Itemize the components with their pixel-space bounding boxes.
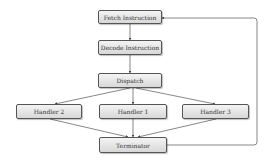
node-handler-2: Handler 2 [16, 104, 82, 119]
node-handler-1: Handler 1 [99, 104, 167, 119]
edge-handler2-terminator [50, 119, 128, 137]
node-dispatch: Dispatch [98, 73, 162, 88]
edge-dispatch-handler3 [136, 88, 215, 104]
edge-handler3-terminator [138, 119, 216, 137]
node-label: Decode Instruction [101, 44, 159, 51]
node-label: Dispatch [117, 77, 144, 84]
node-label: Terminator [116, 142, 150, 149]
edge-dispatch-handler2 [55, 88, 130, 104]
node-label: Fetch Instruction [104, 14, 157, 21]
node-fetch-instruction: Fetch Instruction [98, 10, 162, 24]
node-terminator: Terminator [99, 137, 167, 153]
node-label: Handler 1 [118, 108, 149, 115]
node-handler-3: Handler 3 [182, 104, 249, 119]
node-label: Handler 3 [200, 108, 231, 115]
edge-terminator-fetch [162, 18, 257, 145]
node-decode-instruction: Decode Instruction [98, 40, 162, 55]
node-label: Handler 2 [34, 108, 65, 115]
